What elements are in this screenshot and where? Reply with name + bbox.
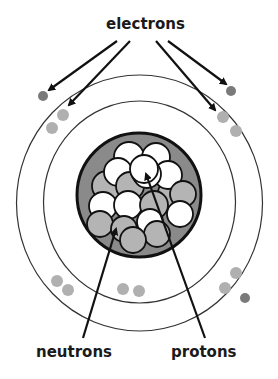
electron <box>217 111 229 123</box>
electron <box>133 285 145 297</box>
electron <box>230 125 242 137</box>
electron <box>219 282 231 294</box>
neutron <box>144 221 170 247</box>
electron <box>38 91 48 101</box>
electron-arrow-4 <box>168 41 226 84</box>
electron <box>240 293 250 303</box>
electron <box>62 284 74 296</box>
neutron <box>120 227 146 253</box>
neutron <box>87 211 113 237</box>
electrons-label: electrons <box>106 15 185 33</box>
electron <box>117 283 129 295</box>
neutrons-label: neutrons <box>36 343 112 361</box>
electron <box>226 86 236 96</box>
proton <box>167 201 193 227</box>
electron-arrow-3 <box>156 41 215 110</box>
protons-label: protons <box>171 343 237 361</box>
electron <box>51 275 63 287</box>
electron <box>57 109 69 121</box>
nucleus <box>77 133 201 257</box>
neutron-arrow <box>83 229 116 338</box>
electron <box>46 122 58 134</box>
proton <box>114 191 142 219</box>
proton <box>130 155 158 183</box>
atom-diagram <box>0 0 278 379</box>
electron-arrow-2 <box>69 41 130 105</box>
electron <box>230 267 242 279</box>
